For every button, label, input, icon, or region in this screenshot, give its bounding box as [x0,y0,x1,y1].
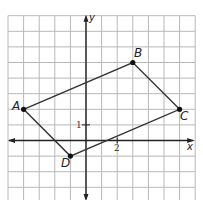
x-axis-label: x [186,141,193,152]
vertex-point-B [130,60,135,65]
point-label-C: C [180,109,189,123]
y-axis-label: y [88,12,96,23]
point-label-B: B [134,46,142,60]
grid-lines [8,16,195,200]
y-tick-label-1: 1 [76,120,82,130]
coordinate-plane: x y 2 1 A B C D [0,0,203,200]
x-axis-arrow-left-icon [8,138,15,143]
point-label-D: D [61,156,70,170]
vertex-point-A [21,107,26,112]
y-axis-arrow-down-icon [84,194,89,200]
x-tick-label-2: 2 [114,143,120,153]
point-label-A: A [11,99,20,113]
